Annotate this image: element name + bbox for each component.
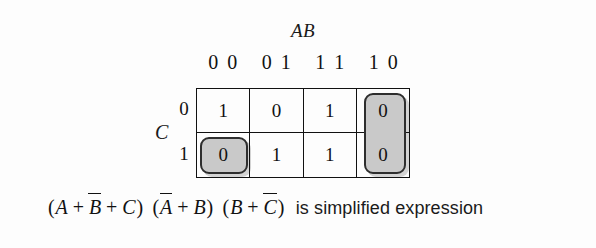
column-header-11: 1 1: [303, 48, 357, 76]
column-header-00: 0 0: [196, 48, 250, 76]
cell-value: 0: [272, 100, 282, 122]
kmap-cell-c1-ab11: 1: [304, 133, 357, 177]
column-header-bit: 1: [369, 51, 379, 74]
kmap-cell-c0-ab11: 1: [304, 89, 357, 132]
kmap-cell-c0-ab01: 0: [250, 89, 303, 132]
expression-term-2: (A+B): [153, 196, 214, 219]
simplified-expression: (A+B+C) (A+B) (B+C) is simplified expres…: [48, 196, 483, 219]
variable-c: C: [122, 196, 137, 219]
variable-b: B: [230, 196, 244, 219]
expression-term-3: (B+C): [223, 196, 285, 219]
row-header-1: 1: [176, 143, 192, 165]
paren-close: ): [278, 196, 285, 218]
column-header-01: 0 1: [250, 48, 304, 76]
row-header-0: 0: [176, 98, 192, 120]
paren-open: (: [153, 196, 160, 218]
column-header-bit: 1: [315, 51, 325, 74]
column-header-bit: 0: [208, 51, 218, 74]
column-header-bit: 0: [262, 51, 272, 74]
cell-value: 1: [325, 100, 335, 122]
variable-c-not: C: [263, 196, 278, 219]
column-header-bit: 1: [281, 51, 291, 74]
variable-a: A: [55, 196, 69, 219]
variable-b: B: [193, 196, 207, 219]
cell-value: 0: [378, 100, 388, 122]
column-variable-label: AB: [273, 20, 333, 42]
cell-value: 1: [218, 100, 228, 122]
operator-plus: +: [173, 196, 193, 218]
kmap-cell-c0-ab00: 1: [197, 89, 250, 132]
column-header-bit: 1: [334, 51, 344, 74]
column-header-bit: 0: [227, 51, 237, 74]
kmap-cell-c1-ab01: 1: [250, 133, 303, 177]
paren-close: ): [207, 196, 214, 218]
paren-close: ): [136, 196, 143, 218]
variable-a-not: A: [160, 196, 174, 219]
variable-b-not: B: [88, 196, 102, 219]
paren-open: (: [48, 196, 55, 218]
column-headers: 0 0 0 1 1 1 1 0: [196, 48, 410, 76]
cell-value: 0: [378, 144, 388, 166]
cell-value: 1: [272, 144, 282, 166]
kmap-figure: AB 0 0 0 1 1 1 1 0 C 0 1 1: [0, 0, 596, 248]
expression-term-1: (A+B+C): [48, 196, 144, 219]
column-header-10: 1 0: [357, 48, 411, 76]
operator-plus: +: [243, 196, 263, 218]
row-variable-label: C: [155, 121, 168, 144]
paren-open: (: [223, 196, 230, 218]
operator-plus: +: [102, 196, 122, 218]
expression-caption: is simplified expression: [285, 198, 483, 219]
column-header-bit: 0: [388, 51, 398, 74]
cell-value: 0: [218, 144, 228, 166]
operator-plus: +: [69, 196, 89, 218]
cell-value: 1: [325, 144, 335, 166]
